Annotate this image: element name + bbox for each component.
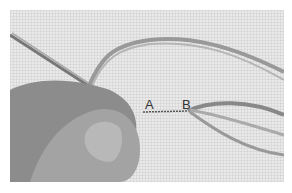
photo-illustration: [10, 10, 284, 182]
photo: A B: [10, 10, 284, 182]
label-b: B: [182, 98, 191, 111]
label-a: A: [145, 98, 154, 111]
